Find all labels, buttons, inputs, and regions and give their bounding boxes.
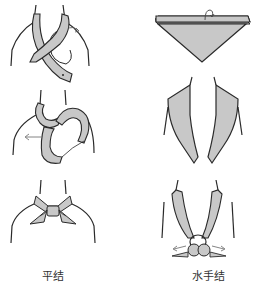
scarf-loop-illustration <box>0 85 128 180</box>
flat-knot-caption: 平结 <box>42 267 64 283</box>
scarf-crossed-illustration <box>0 0 128 90</box>
scarf-collar-illustration <box>128 75 256 180</box>
sailor-knot-step-1 <box>128 0 256 75</box>
flat-knot-finished-illustration <box>0 180 128 260</box>
folded-triangle-scarf-illustration <box>128 0 256 75</box>
sailor-knot-step-3 <box>128 180 256 260</box>
sailor-knot-step-2 <box>128 75 256 180</box>
sailor-knot-caption: 水手结 <box>192 267 225 283</box>
sailor-knot-finished-illustration <box>128 180 256 260</box>
flat-knot-step-2 <box>0 85 128 180</box>
flat-knot-step-1 <box>0 0 128 90</box>
flat-knot-step-3 <box>0 180 128 260</box>
